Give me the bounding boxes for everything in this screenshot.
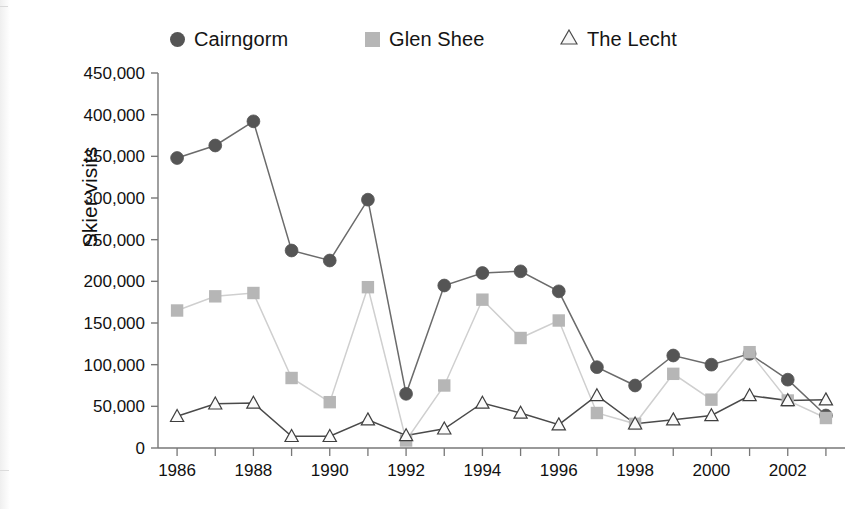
y-tick-label: 50,000 xyxy=(93,397,145,416)
data-point-glen-shee xyxy=(553,314,565,326)
data-point-cairngorm xyxy=(285,244,298,257)
data-point-the-lecht xyxy=(705,409,718,421)
data-point-cairngorm xyxy=(552,285,565,298)
y-tick-label: 450,000 xyxy=(84,64,145,83)
data-point-glen-shee xyxy=(667,368,679,380)
y-tick-label: 200,000 xyxy=(84,272,145,291)
data-point-glen-shee xyxy=(362,281,374,293)
y-tick-label: 150,000 xyxy=(84,314,145,333)
data-point-glen-shee xyxy=(209,290,221,302)
data-point-glen-shee xyxy=(514,332,526,344)
data-point-glen-shee xyxy=(285,372,297,384)
data-point-cairngorm xyxy=(781,373,794,386)
y-tick-label: 350,000 xyxy=(84,147,145,166)
data-point-glen-shee xyxy=(705,393,717,405)
series-line-cairngorm xyxy=(177,121,826,415)
x-tick-label: 2000 xyxy=(693,461,731,480)
data-point-the-lecht xyxy=(361,413,374,425)
data-point-cairngorm xyxy=(323,254,336,267)
x-tick-label: 1990 xyxy=(311,461,349,480)
data-point-cairngorm xyxy=(247,115,260,128)
x-tick-label: 1998 xyxy=(616,461,654,480)
series-line-glen-shee xyxy=(177,287,826,440)
data-point-glen-shee xyxy=(476,293,488,305)
data-point-cairngorm xyxy=(400,387,413,400)
data-point-glen-shee xyxy=(438,379,450,391)
data-point-glen-shee xyxy=(743,346,755,358)
data-point-glen-shee xyxy=(591,407,603,419)
y-tick-label: 250,000 xyxy=(84,231,145,250)
data-point-cairngorm xyxy=(171,152,184,165)
y-tick-label: 300,000 xyxy=(84,189,145,208)
data-point-cairngorm xyxy=(209,139,222,152)
x-tick-label: 2002 xyxy=(769,461,807,480)
data-point-the-lecht xyxy=(590,389,603,401)
data-point-the-lecht xyxy=(323,430,336,442)
y-tick-label: 400,000 xyxy=(84,106,145,125)
data-point-the-lecht xyxy=(819,393,832,405)
x-tick-label: 1996 xyxy=(540,461,578,480)
data-point-glen-shee xyxy=(247,287,259,299)
y-tick-label: 100,000 xyxy=(84,356,145,375)
data-point-the-lecht xyxy=(476,396,489,408)
x-tick-label: 1988 xyxy=(235,461,273,480)
data-point-cairngorm xyxy=(705,358,718,371)
y-tick-label: 0 xyxy=(136,439,145,458)
plot-area: 050,000100,000150,000200,000250,000300,0… xyxy=(0,0,856,509)
data-point-cairngorm xyxy=(667,349,680,362)
data-point-cairngorm xyxy=(514,265,527,278)
x-tick-label: 1994 xyxy=(464,461,502,480)
data-point-cairngorm xyxy=(629,379,642,392)
data-point-the-lecht xyxy=(438,422,451,434)
series-line-the-lecht xyxy=(177,396,826,437)
data-point-glen-shee xyxy=(171,304,183,316)
plot-canvas: 050,000100,000150,000200,000250,000300,0… xyxy=(0,0,856,509)
data-point-the-lecht xyxy=(743,389,756,401)
data-point-cairngorm xyxy=(438,279,451,292)
data-point-glen-shee xyxy=(324,396,336,408)
data-point-the-lecht xyxy=(247,396,260,408)
data-point-glen-shee xyxy=(820,412,832,424)
data-point-cairngorm xyxy=(591,361,604,374)
data-point-cairngorm xyxy=(476,267,489,280)
chart-figure: Cairngorm Glen Shee The Lecht Skier visi… xyxy=(0,0,856,509)
data-point-cairngorm xyxy=(362,193,375,206)
x-tick-label: 1992 xyxy=(387,461,425,480)
x-tick-label: 1986 xyxy=(158,461,196,480)
